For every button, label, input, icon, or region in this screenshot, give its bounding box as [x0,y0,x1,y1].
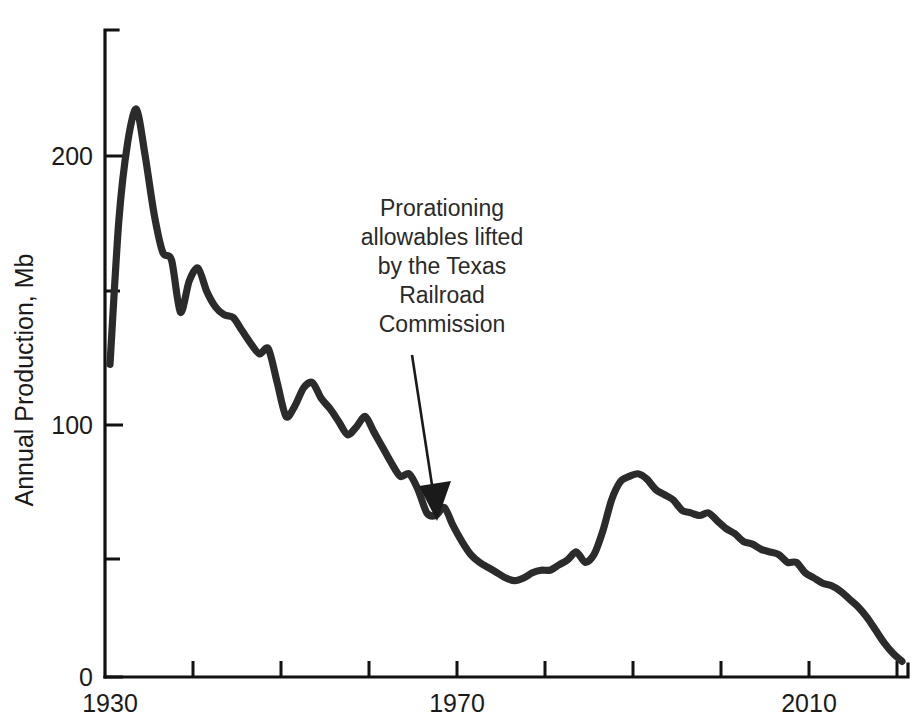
chart-plot-area: 0 100 200 1930 1970 2010 Annual Producti… [0,0,918,727]
y-tick-label-100: 100 [51,411,93,439]
annotation-text: Prorationing allowables lifted by the Te… [361,195,523,337]
x-axis-line [105,664,908,677]
x-tick-label-1930: 1930 [82,689,138,717]
annotation-line-2: allowables lifted [361,224,523,250]
annotation-line-3: by the Texas [378,253,507,279]
annotation-line-1: Prorationing [380,195,504,221]
y-tick-label-0: 0 [79,663,93,691]
x-tick-label-1970: 1970 [429,689,485,717]
y-tick-label-200: 200 [51,142,93,170]
annotation-line-5: Commission [379,311,506,337]
chart-figure: 0 100 200 1930 1970 2010 Annual Producti… [0,0,918,727]
annotation-line-4: Railroad [399,282,485,308]
x-axis-ticks [193,661,897,677]
y-axis-title: Annual Production, Mb [10,254,38,507]
data-series-line [110,109,902,661]
x-tick-label-2010: 2010 [781,689,837,717]
